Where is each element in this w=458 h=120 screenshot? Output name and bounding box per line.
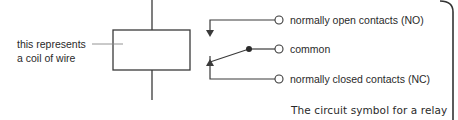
relay-diagram: this represents a coil of wire normally … xyxy=(0,0,458,120)
figure-caption: The circuit symbol for a relay xyxy=(291,104,447,116)
common-label: common xyxy=(290,42,330,56)
common-terminal-icon xyxy=(275,45,283,53)
frame-border xyxy=(440,1,453,120)
coil-symbol xyxy=(113,0,190,100)
coil-label-line-1: this represents xyxy=(17,37,86,51)
no-contacts-label: normally open contacts (NO) xyxy=(290,13,424,27)
nc-contacts-label: normally closed contacts (NC) xyxy=(290,72,430,86)
no-terminal-icon xyxy=(275,16,283,24)
coil-label: this represents a coil of wire xyxy=(17,37,86,65)
switch-contacts xyxy=(206,20,275,79)
nc-terminal-icon xyxy=(275,75,283,83)
coil-label-line-2: a coil of wire xyxy=(17,51,86,65)
common-pivot-dot xyxy=(246,46,252,52)
